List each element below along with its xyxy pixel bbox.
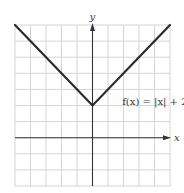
function-label: f(x) = |x| + 2: [122, 96, 184, 108]
function-graph: x y f(x) = |x| + 2: [0, 0, 184, 193]
y-axis-label: y: [89, 11, 96, 22]
x-axis-label: x: [174, 132, 180, 143]
y-axis-arrow-icon: [90, 23, 95, 31]
